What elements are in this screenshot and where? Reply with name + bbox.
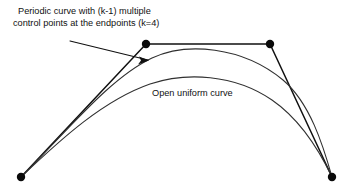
- bspline-diagram: Periodic curve with (k-1) multiple contr…: [0, 0, 358, 190]
- control-point-p2: [266, 40, 274, 48]
- open-uniform-curve-label: Open uniform curve: [152, 88, 233, 98]
- periodic-curve-label-line2: control points at the endpoints (k=4): [13, 18, 159, 28]
- periodic-curve-label-line1: Periodic curve with (k-1) multiple: [18, 6, 151, 16]
- control-point-p0: [17, 173, 25, 181]
- control-point-p1: [142, 40, 150, 48]
- control-point-p3: [328, 173, 336, 181]
